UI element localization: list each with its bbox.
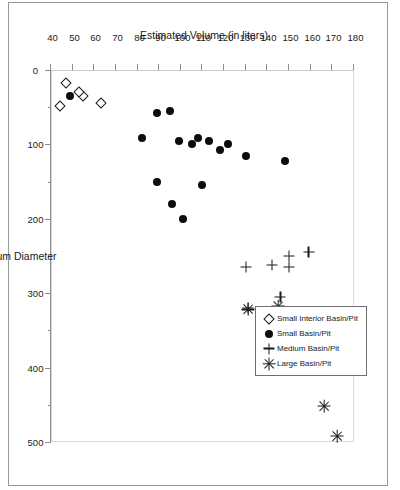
- volume-minor-tick: [48, 405, 51, 406]
- diameter-tick: [115, 64, 116, 70]
- y-axis-line: [51, 70, 354, 71]
- data-point: [284, 251, 295, 262]
- data-point: [205, 137, 213, 145]
- diameter-tick: [331, 64, 332, 70]
- diamond-open-icon: [263, 313, 274, 324]
- figure-page: 0100200300400500 40506070809010011012013…: [0, 0, 400, 490]
- data-point: [330, 430, 343, 443]
- volume-tick-label: 100: [19, 139, 53, 150]
- diameter-tick: [93, 64, 94, 70]
- legend-item-large: Large Basin/Pit: [261, 356, 361, 371]
- legend-item-small: Small Basin/Pit: [261, 326, 361, 341]
- data-point: [166, 107, 174, 115]
- diameter-tick-label: 180: [339, 32, 373, 43]
- data-point: [175, 137, 183, 145]
- diameter-tick: [158, 64, 159, 70]
- data-point: [194, 134, 202, 142]
- data-point: [266, 259, 277, 270]
- legend-marker: [261, 327, 277, 340]
- volume-tick-label: 400: [19, 362, 53, 373]
- data-point: [138, 134, 146, 142]
- plus-icon: [264, 343, 275, 354]
- diameter-tick: [180, 64, 181, 70]
- rotated-chart-canvas: 0100200300400500 40506070809010011012013…: [24, 30, 376, 460]
- legend: Small Interior Basin/PitSmall Basin/PitM…: [255, 306, 367, 376]
- data-point: [281, 157, 289, 165]
- data-point: [153, 109, 161, 117]
- legend-label: Large Basin/Pit: [277, 357, 331, 370]
- diameter-tick: [137, 64, 138, 70]
- data-point: [241, 303, 254, 316]
- diameter-tick: [223, 64, 224, 70]
- volume-minor-tick: [48, 330, 51, 331]
- data-point: [199, 181, 207, 189]
- volume-tick-label: 500: [19, 437, 53, 448]
- diameter-tick: [50, 64, 51, 70]
- legend-item-small_interior: Small Interior Basin/Pit: [261, 311, 361, 326]
- diameter-tick: [310, 64, 311, 70]
- data-point: [242, 152, 250, 160]
- data-point: [224, 140, 232, 148]
- legend-label: Medium Basin/Pit: [277, 342, 339, 355]
- data-point: [240, 262, 251, 273]
- data-point: [66, 92, 74, 100]
- diameter-tick: [72, 64, 73, 70]
- diameter-tick: [245, 64, 246, 70]
- data-point: [284, 262, 295, 273]
- data-point: [153, 178, 161, 186]
- diameter-tick: [353, 64, 354, 70]
- filled-circle-icon: [265, 330, 273, 338]
- volume-tick-label: 0: [19, 65, 53, 76]
- x-axis-title: Maximum Diameter: [0, 250, 81, 262]
- data-point: [317, 400, 330, 413]
- data-point: [188, 140, 196, 148]
- legend-marker: [261, 312, 277, 325]
- data-point: [179, 215, 187, 223]
- data-point: [216, 146, 224, 154]
- volume-tick-label: 200: [19, 213, 53, 224]
- diameter-tick: [202, 64, 203, 70]
- volume-tick-label: 300: [19, 288, 53, 299]
- volume-minor-tick: [48, 107, 51, 108]
- legend-marker: [261, 342, 277, 355]
- diameter-tick: [266, 64, 267, 70]
- diameter-tick: [288, 64, 289, 70]
- data-point: [168, 200, 176, 208]
- legend-marker: [261, 357, 277, 370]
- asterisk-icon: [263, 357, 276, 370]
- volume-minor-tick: [48, 182, 51, 183]
- legend-item-medium: Medium Basin/Pit: [261, 341, 361, 356]
- data-point: [303, 247, 314, 258]
- legend-label: Small Basin/Pit: [277, 327, 331, 340]
- y-axis-title: Estimated Volume (in liters): [135, 29, 275, 41]
- legend-label: Small Interior Basin/Pit: [277, 312, 358, 325]
